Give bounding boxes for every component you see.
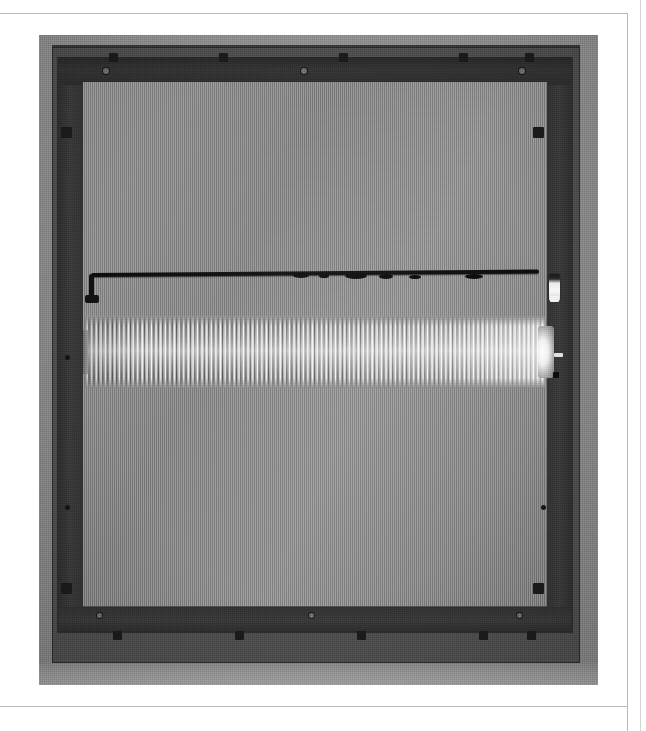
- bottom-rail-tab: [357, 631, 366, 640]
- tube-end-left: [83, 330, 88, 374]
- wire-harness-lump: [293, 273, 309, 278]
- background-shelf: [39, 663, 598, 685]
- wire-harness-lump: [465, 274, 483, 279]
- lamp-tube-assembly: [83, 316, 553, 388]
- wire-harness-left-foot: [85, 295, 99, 303]
- frame-rail-bottom: [59, 607, 571, 633]
- right-rail-dot: [553, 372, 559, 378]
- figure-photograph: [39, 35, 598, 685]
- top-rail-tab: [109, 53, 118, 62]
- bottom-rail-tab: [235, 631, 244, 640]
- tube-brightness-ramp: [85, 316, 545, 388]
- tube-end-cap-right: [538, 326, 554, 378]
- corner-tab: [533, 127, 544, 138]
- lamp-tube: [85, 316, 545, 388]
- top-rail-tab: [339, 53, 348, 62]
- page-rule-top: [0, 13, 628, 14]
- side-screw: [65, 355, 70, 360]
- wire-harness-lump: [319, 274, 329, 278]
- corner-tab: [533, 583, 544, 594]
- corner-tab: [61, 583, 72, 594]
- top-rail-screw: [301, 68, 307, 74]
- top-rail-tab: [459, 53, 468, 62]
- top-rail-tab: [219, 53, 228, 62]
- side-screw: [65, 505, 70, 510]
- bottom-rail-screw: [309, 613, 314, 618]
- wire-connector-tip: [550, 296, 559, 302]
- right-rail-marker: [554, 353, 563, 357]
- wire-harness: [83, 265, 553, 305]
- page-rule-bottom: [0, 706, 628, 707]
- top-rail-screw: [103, 68, 109, 74]
- top-rail-tab: [525, 53, 534, 62]
- bottom-rail-tab: [479, 631, 488, 640]
- page-rule-right-outer: [640, 0, 641, 731]
- wire-harness-lump: [379, 274, 393, 279]
- bottom-rail-screw: [517, 613, 522, 618]
- frame-rail-left: [57, 57, 83, 633]
- frame-rail-top: [59, 57, 571, 85]
- wire-harness-lump: [345, 273, 367, 279]
- bottom-rail-screw: [97, 613, 102, 618]
- top-rail-screw: [519, 68, 525, 74]
- side-screw: [541, 505, 546, 510]
- bottom-rail-tab: [527, 631, 536, 640]
- corner-tab: [61, 127, 72, 138]
- bottom-rail-tab: [113, 631, 122, 640]
- page-rule-right: [627, 13, 628, 731]
- wire-harness-lump: [409, 275, 421, 279]
